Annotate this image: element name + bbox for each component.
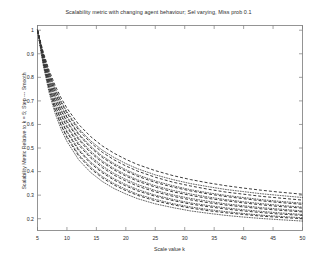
x-tick-label: 50 [300, 235, 306, 241]
x-tick-label: 25 [152, 235, 158, 241]
x-tick-label: 20 [123, 235, 129, 241]
data-series-line [38, 30, 303, 211]
y-tick-label: 0.7 [27, 98, 34, 104]
data-series-line [38, 30, 303, 204]
data-series-line [38, 30, 303, 219]
data-series-line [38, 30, 303, 194]
x-tick-label: 30 [182, 235, 188, 241]
y-axis-label: Scalability Metric Relative to k = 5; St… [21, 36, 27, 226]
y-tick-label: 0.8 [27, 74, 34, 80]
x-tick-label: 10 [64, 235, 70, 241]
x-tick-label: 40 [241, 235, 247, 241]
y-tick-label: 0.2 [27, 216, 34, 222]
data-series-line [38, 30, 303, 212]
y-tick-label: 0.4 [27, 168, 34, 174]
data-series-line [38, 30, 303, 197]
figure-canvas: Scalability metric with changing agent b… [0, 0, 317, 265]
data-series-line [38, 30, 303, 221]
data-series-line [38, 30, 303, 207]
y-tick-label: 0.3 [27, 192, 34, 198]
y-tick-label: 1 [31, 27, 34, 33]
x-tick-label: 5 [36, 235, 39, 241]
data-series-line [38, 30, 303, 200]
plot-axes: 51015202530354045500.20.30.40.50.60.70.8… [0, 0, 317, 265]
y-tick-label: 0.5 [27, 145, 34, 151]
x-axis-label: Scale value k [37, 246, 302, 252]
y-tick-label: 0.6 [27, 121, 34, 127]
x-tick-label: 15 [93, 235, 99, 241]
x-tick-label: 45 [270, 235, 276, 241]
data-series-line [38, 30, 303, 203]
y-tick-label: 0.9 [27, 51, 34, 57]
x-tick-label: 35 [211, 235, 217, 241]
